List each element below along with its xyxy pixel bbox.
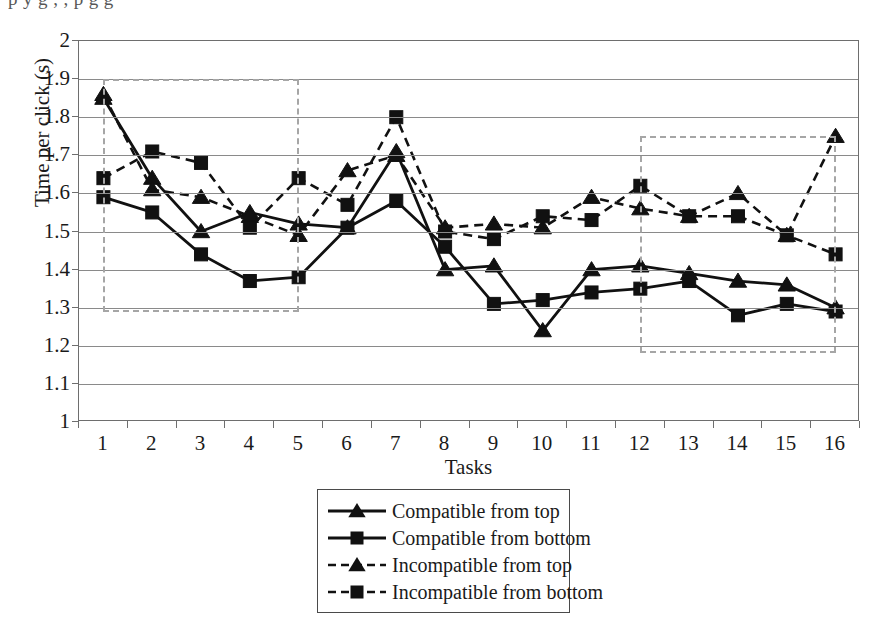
y-tick-label: 1.2 xyxy=(0,332,70,357)
square-marker xyxy=(292,271,305,284)
triangle-marker xyxy=(485,216,502,230)
gridline xyxy=(79,193,858,194)
square-marker xyxy=(195,248,208,261)
gridline xyxy=(79,232,858,233)
legend-key-svg xyxy=(326,555,388,575)
legend-item: Incompatible from top xyxy=(318,551,569,578)
legend-key xyxy=(326,555,388,575)
y-tick-label: 1 xyxy=(0,409,70,434)
x-tick-label: 6 xyxy=(326,431,366,456)
x-tick-label: 8 xyxy=(424,431,464,456)
legend-key-svg xyxy=(326,501,388,521)
x-tick-mark xyxy=(810,421,811,428)
y-tick-label: 1.7 xyxy=(0,142,70,167)
square-marker xyxy=(341,198,354,211)
series-compatible-from-bottom xyxy=(97,191,842,322)
square-marker xyxy=(634,282,647,295)
legend-label: Compatible from bottom xyxy=(388,528,591,548)
x-tick-mark xyxy=(273,421,274,428)
legend-key-svg xyxy=(326,528,388,548)
x-tick-mark xyxy=(78,421,79,428)
y-tick-label: 1.3 xyxy=(0,294,70,319)
x-tick-mark xyxy=(322,421,323,428)
square-marker xyxy=(487,233,500,246)
x-tick-mark xyxy=(615,421,616,428)
x-tick-label: 13 xyxy=(668,431,708,456)
y-tick-label: 1.4 xyxy=(0,256,70,281)
x-tick-mark xyxy=(469,421,470,428)
gridline xyxy=(79,384,858,385)
x-tick-label: 12 xyxy=(619,431,659,456)
x-tick-label: 14 xyxy=(717,431,757,456)
y-axis-ticks: 11.11.21.31.41.51.61.71.81.92 xyxy=(0,40,78,421)
x-tick-label: 7 xyxy=(375,431,415,456)
gridline xyxy=(79,346,858,347)
legend-label: Incompatible from bottom xyxy=(388,582,603,602)
x-tick-mark xyxy=(761,421,762,428)
square-marker xyxy=(97,172,110,185)
gridline xyxy=(79,117,858,118)
legend-item: Incompatible from bottom xyxy=(318,578,569,605)
x-tick-mark xyxy=(566,421,567,428)
legend-item: Compatible from top xyxy=(318,497,569,524)
gridline xyxy=(79,308,858,309)
square-marker xyxy=(351,585,364,598)
y-tick-label: 1.1 xyxy=(0,370,70,395)
legend-label: Incompatible from top xyxy=(388,555,572,575)
legend-label: Compatible from top xyxy=(388,501,560,521)
x-tick-mark xyxy=(371,421,372,428)
legend-key xyxy=(326,501,388,521)
legend-item: Compatible from bottom xyxy=(318,524,569,551)
square-marker xyxy=(683,275,696,288)
square-marker xyxy=(195,156,208,169)
x-tick-mark xyxy=(224,421,225,428)
square-marker xyxy=(536,210,549,223)
square-marker xyxy=(683,210,696,223)
x-tick-label: 4 xyxy=(229,431,269,456)
gridline xyxy=(79,270,858,271)
square-marker xyxy=(731,309,744,322)
x-tick-mark xyxy=(713,421,714,428)
series-incompatible-from-bottom xyxy=(97,111,842,261)
x-axis-title: Tasks xyxy=(78,455,859,480)
x-tick-label: 16 xyxy=(815,431,855,456)
gridline xyxy=(79,155,858,156)
square-marker xyxy=(439,240,452,253)
legend-key xyxy=(326,582,388,602)
legend-key xyxy=(326,528,388,548)
square-marker xyxy=(390,195,403,208)
square-marker xyxy=(585,286,598,299)
square-marker xyxy=(146,206,159,219)
chart-legend: Compatible from topCompatible from botto… xyxy=(317,489,570,613)
x-tick-mark xyxy=(517,421,518,428)
x-tick-label: 2 xyxy=(131,431,171,456)
square-marker xyxy=(351,531,364,544)
square-marker xyxy=(829,248,842,261)
gridline xyxy=(79,79,858,80)
y-tick-label: 1.5 xyxy=(0,218,70,243)
square-marker xyxy=(731,210,744,223)
square-marker xyxy=(292,172,305,185)
series-line xyxy=(103,98,835,330)
triangle-marker xyxy=(827,128,844,142)
square-marker xyxy=(536,294,549,307)
y-tick-label: 1.8 xyxy=(0,104,70,129)
x-tick-label: 15 xyxy=(766,431,806,456)
x-tick-label: 11 xyxy=(571,431,611,456)
x-tick-label: 5 xyxy=(278,431,318,456)
triangle-marker xyxy=(348,557,365,571)
y-tick-label: 2 xyxy=(0,28,70,53)
x-tick-mark xyxy=(664,421,665,428)
x-tick-label: 10 xyxy=(522,431,562,456)
legend-key-svg xyxy=(326,582,388,602)
y-tick-label: 1.9 xyxy=(0,66,70,91)
triangle-marker xyxy=(95,86,112,100)
series-line xyxy=(103,94,835,235)
series-line xyxy=(103,197,835,315)
series-line xyxy=(103,117,835,254)
chart-figure: Time per click (s) 11.11.21.31.41.51.61.… xyxy=(0,0,887,638)
square-marker xyxy=(634,179,647,192)
plot-area xyxy=(78,40,859,421)
x-tick-mark xyxy=(420,421,421,428)
x-tick-mark xyxy=(176,421,177,428)
